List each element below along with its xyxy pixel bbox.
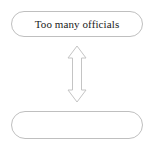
node-bottom[interactable] <box>11 111 143 139</box>
node-top-label: Too many officials <box>35 18 120 30</box>
double-headed-arrow-icon <box>62 44 92 104</box>
arrow-outline-path <box>68 46 86 102</box>
node-top[interactable]: Too many officials <box>11 11 143 37</box>
double-headed-arrow-shape <box>62 44 92 104</box>
diagram-canvas: Too many officials <box>0 0 154 149</box>
